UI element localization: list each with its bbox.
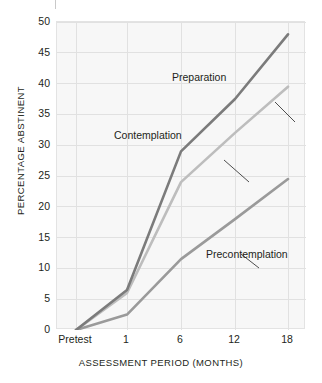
y-tick-label: 30	[24, 139, 50, 150]
y-tick-label: 45	[24, 47, 50, 58]
y-tick-label: 5	[24, 293, 50, 304]
series-label-precontemplation: Precontemplation	[206, 249, 288, 260]
x-tick-label: 18	[281, 334, 293, 345]
x-tick-label: Pretest	[58, 334, 91, 345]
y-tick-label: 20	[24, 201, 50, 212]
y-tick-label: 40	[24, 78, 50, 89]
top-tick-mark	[55, 0, 56, 9]
x-axis-title: ASSESSMENT PERIOD (MONTHS)	[0, 357, 322, 368]
y-tick-label: 35	[24, 108, 50, 119]
chart-figure: PERCENTAGE ABSTINENT 0510152025303540455…	[0, 0, 322, 383]
leader-line-contemplation	[224, 160, 249, 182]
y-tick-label: 50	[24, 16, 50, 27]
series-label-contemplation: Contemplation	[114, 130, 182, 141]
y-tick-label: 10	[24, 262, 50, 273]
series-line-contemplation	[76, 87, 288, 330]
y-axis-tick-labels: 05101520253035404550	[22, 0, 50, 383]
grid-lines	[57, 22, 306, 330]
series-label-preparation: Preparation	[172, 72, 226, 83]
y-tick-label: 25	[24, 170, 50, 181]
x-tick-label: 1	[123, 334, 129, 345]
leader-line-preparation	[275, 102, 295, 122]
y-tick-label: 0	[24, 324, 50, 335]
x-tick-label: 12	[228, 334, 240, 345]
plot-svg	[57, 22, 306, 330]
x-tick-label: 6	[177, 334, 183, 345]
y-tick-label: 15	[24, 232, 50, 243]
x-axis-tick-labels: Pretest161218	[0, 334, 322, 350]
plot-area	[56, 21, 305, 329]
